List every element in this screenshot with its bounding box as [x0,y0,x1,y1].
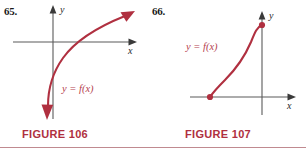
axes-107 [190,11,296,115]
curve-lower-endpoint-dot [207,94,213,100]
curve-upper-endpoint-dot [259,22,265,28]
x-axis-label: x [127,45,133,56]
function-label-106: y = f(x) [61,83,94,95]
y-axis-label: y [268,10,274,21]
figure-107-graph: y x y = f(x) [153,0,306,125]
figure-caption-107: FIGURE 107 [185,128,251,140]
y-axis-label: y [59,4,65,15]
bottom-divider [0,147,306,148]
y-axis-arrowhead [259,11,266,20]
function-label-107: y = f(x) [185,41,218,53]
figure-caption-106: FIGURE 106 [22,128,88,140]
axes-106 [13,5,137,119]
function-curve-107 [210,25,262,97]
figure-106-graph: y x y = f(x) [0,0,153,125]
curve-lower-arrowhead [42,105,54,121]
x-axis-label: x [286,100,292,111]
y-axis-arrowhead [50,5,57,14]
figure-page: 65. 66. y x y = f(x) y x y = f(x) FIGURE… [0,0,306,153]
